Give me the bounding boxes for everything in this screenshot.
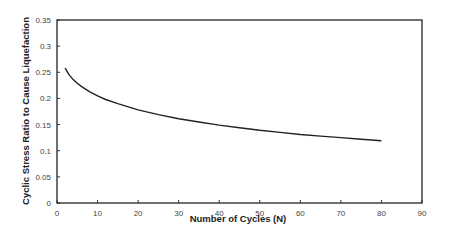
y-tick-label: 0 <box>47 199 52 208</box>
x-axis-title: Number of Cycles (N) <box>190 213 287 224</box>
x-tick-label: 30 <box>174 209 183 218</box>
x-tick-label: 90 <box>418 209 427 218</box>
x-tick-label: 10 <box>93 209 102 218</box>
x-tick-label: 80 <box>377 209 386 218</box>
y-tick-label: 0.05 <box>35 173 51 182</box>
y-tick-label: 0.35 <box>35 16 51 25</box>
x-tick-label: 60 <box>296 209 305 218</box>
y-tick-label: 0.1 <box>40 147 52 156</box>
x-tick-label: 0 <box>55 209 60 218</box>
y-tick-label: 0.15 <box>35 121 51 130</box>
plot-frame <box>57 20 422 203</box>
x-tick-label: 70 <box>336 209 345 218</box>
plot-area <box>57 20 422 203</box>
y-tick-label: 0.2 <box>40 94 52 103</box>
y-tick-label: 0.25 <box>35 68 51 77</box>
y-axis-title: Cyclic Stress Ratio to Cause Liquefactio… <box>20 17 31 205</box>
csr-curve <box>65 68 381 141</box>
x-tick-label: 20 <box>134 209 143 218</box>
y-tick-label: 0.3 <box>40 42 52 51</box>
chart: 00.050.10.150.20.250.30.35 0102030405060… <box>0 0 450 235</box>
